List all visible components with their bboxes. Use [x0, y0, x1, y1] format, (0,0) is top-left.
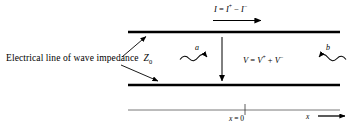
incident-wave-label: a	[195, 44, 199, 52]
figure-canvas	[0, 0, 358, 132]
voltage-reverse-superscript: −	[280, 54, 283, 60]
reflected-wave-arrow	[319, 54, 346, 60]
current-equation-label: I = I+ − I−	[214, 4, 247, 13]
x-axis-label: x	[306, 113, 309, 121]
current-reverse-superscript: −	[244, 3, 247, 9]
leader-arrow-bottom-conductor	[121, 65, 158, 81]
voltage-plus-operator: +	[266, 55, 275, 65]
reflected-wave-label: b	[326, 44, 330, 52]
origin-label: x = 0	[229, 115, 244, 123]
voltage-equation-label: V = V+ + V−	[243, 55, 283, 64]
line-description-label: Electrical line of wave impedance Z0	[6, 54, 152, 65]
current-equals-sign: =	[217, 4, 226, 14]
voltage-equals-sign: =	[248, 55, 257, 65]
impedance-subscript: 0	[149, 58, 152, 65]
line-description-text: Electrical line of wave impedance	[6, 53, 139, 63]
origin-value: 0	[240, 114, 244, 123]
current-minus-operator: −	[232, 4, 241, 14]
transmission-line-figure: Electrical line of wave impedance Z0 I =…	[0, 0, 358, 132]
incident-wave-arrow	[180, 54, 207, 60]
